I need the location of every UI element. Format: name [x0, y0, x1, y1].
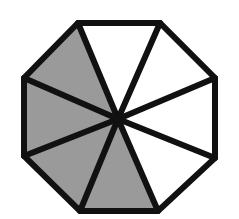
octagon-diagram — [0, 0, 239, 219]
octagon-fraction-figure — [0, 0, 239, 219]
